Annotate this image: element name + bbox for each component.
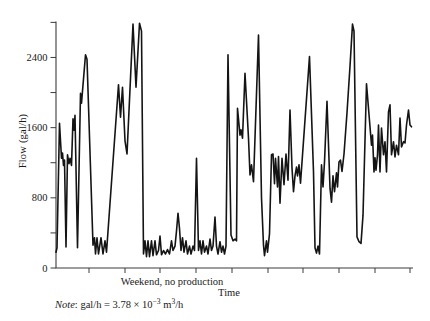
y-tick-label: 2400: [27, 52, 48, 63]
flow-chart: 080016002400: [0, 0, 430, 321]
y-tick-label: 800: [32, 192, 48, 203]
flow-series-line: [56, 23, 412, 256]
x-axis-ticks: [89, 268, 410, 273]
y-tick-label: 1600: [27, 122, 48, 133]
footnote-body-2: m: [161, 299, 172, 310]
y-tick-label: 0: [42, 263, 47, 274]
footnote-note-word: Note: [55, 299, 75, 310]
figure-canvas: 080016002400 Flow (gal/h) Weekend, no pr…: [0, 0, 430, 321]
footnote: Note: gal/h = 3.78 × 10−3 m3/h: [55, 299, 183, 310]
weekend-annotation: Weekend, no production: [121, 276, 224, 287]
x-axis-title: Time: [218, 287, 240, 298]
footnote-exponent-1: −3: [153, 297, 161, 306]
footnote-body-3: /h: [175, 299, 183, 310]
footnote-body-1: : gal/h = 3.78 × 10: [75, 299, 153, 310]
axes: [56, 22, 413, 269]
y-axis-ticks: 080016002400: [27, 22, 57, 273]
y-axis-title: Flow (gal/h): [17, 114, 28, 169]
